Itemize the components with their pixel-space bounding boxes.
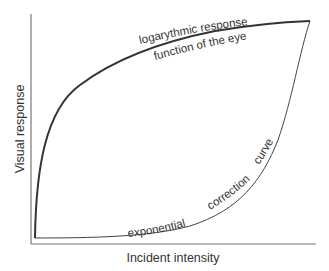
exp-label-curve: curve <box>251 136 276 166</box>
exp-label-correction: correction <box>205 172 252 211</box>
chart-svg: logarythmic response function of the eye… <box>0 0 329 271</box>
y-axis-label: Visual response <box>13 85 27 174</box>
exp-label-exponential: exponential <box>127 217 186 239</box>
x-axis-label: Incident intensity <box>126 251 220 265</box>
chart-container: logarythmic response function of the eye… <box>0 0 329 271</box>
